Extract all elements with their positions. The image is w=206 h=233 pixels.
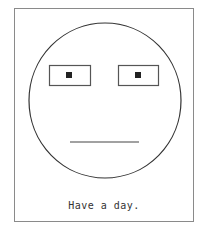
face-outline bbox=[29, 23, 181, 178]
neutral-face-illustration bbox=[0, 0, 206, 233]
right-pupil bbox=[135, 72, 141, 78]
left-pupil bbox=[66, 72, 72, 78]
caption-text: Have a day. bbox=[14, 200, 194, 211]
right-eye bbox=[119, 66, 159, 86]
left-eye bbox=[50, 66, 91, 86]
